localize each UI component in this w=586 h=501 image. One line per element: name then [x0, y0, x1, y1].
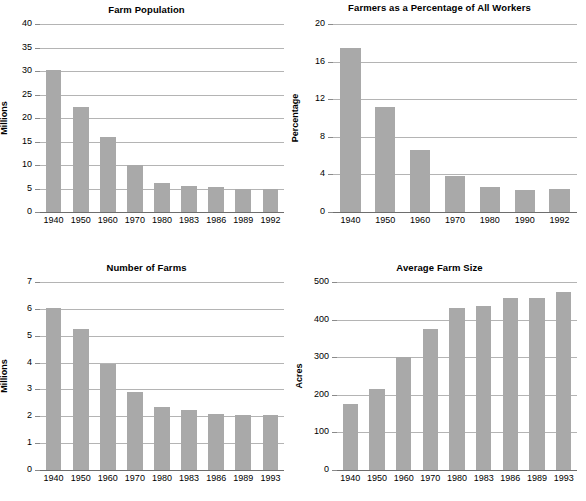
bar: [154, 407, 170, 470]
bar: [340, 48, 360, 212]
chart-panel-number-of-farms: Number of FarmsMillions01234567194019501…: [0, 250, 293, 501]
y-axis-tick-label: 15: [0, 137, 32, 146]
bar: [515, 190, 535, 212]
charts-grid: Farm PopulationMillions05101520253035401…: [0, 0, 586, 501]
bar: [529, 298, 544, 470]
y-axis-tick-label: 4: [0, 358, 32, 367]
y-axis-tick-label: 5: [0, 184, 32, 193]
gridline: [333, 137, 577, 138]
y-axis-tick: [328, 137, 333, 138]
gridline: [333, 62, 577, 63]
y-axis-tick: [35, 309, 40, 310]
bar: [235, 415, 251, 470]
y-axis-tick: [332, 432, 337, 433]
bar: [369, 389, 384, 470]
y-axis-tick-label: 200: [295, 390, 329, 399]
bar: [549, 189, 569, 213]
chart-title: Number of Farms: [0, 262, 293, 273]
y-axis-tick-label: 12: [291, 94, 325, 103]
bar: [503, 298, 518, 470]
bar: [154, 183, 170, 212]
plot-area: 0481216201940195019601970198019901992: [333, 24, 577, 212]
y-axis-tick: [35, 24, 40, 25]
plot-area: 0510152025303540194019501960197019801983…: [40, 24, 284, 212]
bar: [423, 329, 438, 470]
x-axis-tick-label: 1993: [546, 474, 581, 483]
bar: [127, 392, 143, 470]
y-axis-tick-label: 5: [0, 331, 32, 340]
y-axis-tick: [35, 48, 40, 49]
plot-area: 0123456719401950196019701980198319861989…: [40, 282, 284, 470]
gridline: [333, 99, 577, 100]
y-axis-tick: [328, 62, 333, 63]
y-axis-tick: [35, 189, 40, 190]
y-axis-tick-label: 16: [291, 57, 325, 66]
y-axis-tick: [35, 336, 40, 337]
y-axis-tick-label: 3: [0, 384, 32, 393]
gridline: [337, 282, 577, 283]
bar: [73, 329, 89, 470]
chart-title: Farmers as a Percentage of All Workers: [293, 2, 586, 13]
y-axis-tick: [328, 174, 333, 175]
x-axis-tick-label: 1992: [253, 216, 288, 225]
bar: [208, 187, 224, 212]
bar: [396, 357, 411, 470]
y-axis-tick: [328, 24, 333, 25]
y-axis-tick-label: 0: [0, 207, 32, 216]
bar: [343, 404, 358, 470]
y-axis-tick: [35, 118, 40, 119]
y-axis-tick-label: 300: [295, 352, 329, 361]
y-axis-tick-label: 0: [295, 465, 329, 474]
y-axis-tick: [332, 320, 337, 321]
y-axis-tick-label: 8: [291, 132, 325, 141]
y-axis-tick: [332, 357, 337, 358]
y-axis-tick-label: 20: [0, 113, 32, 122]
y-axis-tick-label: 1: [0, 438, 32, 447]
bar: [73, 107, 89, 212]
bar: [445, 176, 465, 212]
bar: [181, 186, 197, 212]
y-axis-tick-label: 4: [291, 169, 325, 178]
bar: [263, 189, 279, 212]
chart-panel-farm-population: Farm PopulationMillions05101520253035401…: [0, 0, 293, 250]
gridline: [40, 309, 284, 310]
y-axis-label: Acres: [294, 363, 304, 388]
y-axis-tick: [332, 470, 337, 471]
bar: [46, 308, 62, 470]
y-axis-tick-label: 100: [295, 427, 329, 436]
y-axis-tick-label: 500: [295, 277, 329, 286]
y-axis-tick-label: 6: [0, 304, 32, 313]
y-axis-tick: [35, 212, 40, 213]
chart-title: Average Farm Size: [293, 262, 586, 273]
y-axis-tick-label: 0: [0, 465, 32, 474]
plot-area: 0100200300400500194019501960197019801983…: [337, 282, 577, 470]
y-axis-tick-label: 35: [0, 43, 32, 52]
gridline: [40, 24, 284, 25]
gridline: [40, 282, 284, 283]
bar: [208, 414, 224, 470]
y-axis-tick: [35, 416, 40, 417]
y-axis-tick-label: 40: [0, 19, 32, 28]
y-axis-tick-label: 10: [0, 160, 32, 169]
bar: [127, 165, 143, 212]
gridline: [40, 71, 284, 72]
gridline: [40, 95, 284, 96]
y-axis-tick: [35, 95, 40, 96]
y-axis-tick: [35, 165, 40, 166]
y-axis-tick-label: 25: [0, 90, 32, 99]
bar: [46, 70, 62, 212]
y-axis-tick: [332, 282, 337, 283]
bar: [476, 306, 491, 470]
gridline: [333, 24, 577, 25]
bar: [235, 189, 251, 213]
y-axis-tick: [35, 470, 40, 471]
gridline: [40, 48, 284, 49]
bar: [410, 150, 430, 212]
chart-panel-farmers-percentage-of-all-workers: Farmers as a Percentage of All WorkersPe…: [293, 0, 586, 250]
y-axis-tick: [35, 282, 40, 283]
y-axis-tick-label: 20: [291, 19, 325, 28]
bar: [375, 107, 395, 212]
bar: [100, 137, 116, 212]
y-axis-tick-label: 30: [0, 66, 32, 75]
y-axis-tick-label: 0: [291, 207, 325, 216]
